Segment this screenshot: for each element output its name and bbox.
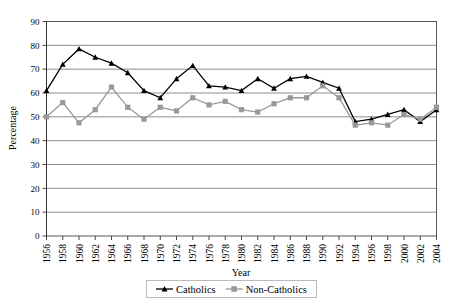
data-point-non-catholics (353, 123, 358, 128)
data-point-non-catholics (125, 105, 130, 110)
data-point-non-catholics (76, 120, 81, 125)
data-point-non-catholics (158, 105, 163, 110)
data-series (44, 46, 440, 128)
x-tick-label: 1972 (172, 244, 182, 263)
data-point-non-catholics (336, 95, 341, 100)
y-tick-label: 40 (31, 136, 41, 146)
data-point-catholics (271, 85, 277, 90)
data-point-non-catholics (401, 112, 406, 117)
data-point-non-catholics (418, 117, 423, 122)
data-point-catholics (125, 70, 131, 75)
x-tick-label: 1978 (221, 244, 231, 263)
y-tick-label: 30 (31, 160, 41, 170)
x-tick-label: 1962 (91, 244, 101, 263)
x-tick-label: 2000 (400, 244, 410, 263)
y-tick-label: 60 (31, 88, 41, 98)
data-point-non-catholics (288, 95, 293, 100)
data-point-catholics (255, 76, 261, 81)
x-tick-label: 2004 (432, 244, 442, 263)
legend-label-non-catholics: Non-Catholics (246, 284, 307, 295)
x-axis-tick-labels: 1956195819601962196419661968197019721974… (42, 244, 442, 263)
x-tick-label: 1986 (286, 244, 296, 263)
x-tick-label: 1974 (188, 244, 198, 263)
legend-marker-non-catholics (231, 286, 237, 292)
line-chart: 0102030405060708090 19561958196019621964… (0, 0, 462, 304)
data-point-non-catholics (320, 83, 325, 88)
data-point-non-catholics (255, 109, 260, 114)
data-point-non-catholics (93, 107, 98, 112)
data-point-non-catholics (223, 99, 228, 104)
legend-label-catholics: Catholics (176, 284, 216, 295)
data-point-non-catholics (60, 100, 65, 105)
x-tick-label: 1994 (351, 244, 361, 263)
y-tick-label: 0 (35, 231, 40, 241)
data-point-non-catholics (385, 123, 390, 128)
data-point-non-catholics (369, 120, 374, 125)
data-point-non-catholics (304, 95, 309, 100)
data-point-non-catholics (239, 107, 244, 112)
x-tick-label: 1958 (58, 244, 68, 263)
y-axis-tickmarks (43, 22, 47, 237)
data-point-non-catholics (44, 114, 49, 119)
y-axis-title: Percentage (7, 106, 18, 150)
x-tick-label: 1956 (42, 244, 52, 263)
data-point-non-catholics (206, 102, 211, 107)
y-axis-tick-labels: 0102030405060708090 (31, 17, 41, 242)
y-tick-label: 50 (31, 112, 41, 122)
x-tick-label: 1960 (75, 244, 85, 263)
x-axis-tickmarks (47, 236, 437, 240)
data-point-catholics (92, 54, 98, 59)
x-tick-label: 1980 (237, 244, 247, 263)
x-tick-label: 1968 (140, 244, 150, 263)
x-axis-title: Year (232, 267, 251, 278)
x-tick-label: 1998 (383, 244, 393, 263)
x-tick-label: 1982 (253, 244, 263, 263)
y-tick-label: 90 (31, 17, 41, 27)
chart-legend: CatholicsNon-Catholics (147, 281, 317, 298)
data-point-catholics (76, 46, 82, 51)
x-tick-label: 1996 (367, 244, 377, 263)
data-point-non-catholics (190, 95, 195, 100)
data-point-non-catholics (271, 101, 276, 106)
x-tick-label: 1970 (156, 244, 166, 263)
x-tick-label: 1964 (107, 244, 117, 263)
y-tick-label: 80 (31, 41, 41, 51)
x-tick-label: 1990 (318, 244, 328, 263)
data-point-non-catholics (109, 84, 114, 89)
chart-container: 0102030405060708090 19561958196019621964… (0, 0, 462, 304)
x-tick-label: 1988 (302, 244, 312, 263)
y-tick-label: 20 (31, 184, 41, 194)
data-point-non-catholics (174, 108, 179, 113)
x-tick-label: 2002 (416, 244, 426, 263)
y-tick-label: 10 (31, 207, 41, 217)
data-point-catholics (190, 63, 196, 68)
x-tick-label: 1976 (205, 244, 215, 263)
data-point-non-catholics (141, 117, 146, 122)
x-tick-label: 1966 (123, 244, 133, 263)
y-tick-label: 70 (31, 64, 41, 74)
data-point-catholics (401, 107, 407, 112)
plot-area-border (47, 22, 437, 237)
x-tick-label: 1984 (270, 244, 280, 263)
x-tick-label: 1992 (335, 244, 345, 263)
data-point-non-catholics (434, 105, 439, 110)
